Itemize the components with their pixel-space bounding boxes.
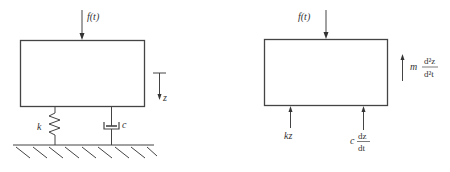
damper-force-coef: c (350, 135, 355, 146)
diagram-canvas: f(t) z k c (0, 0, 450, 172)
damper-force-numerator: dz (358, 131, 367, 141)
spring-label: k (37, 121, 42, 132)
damper-force-denominator: dt (358, 143, 366, 153)
spring-force-label: kz (284, 130, 292, 141)
ground-icon (13, 145, 157, 158)
right-diagram: f(t) m d²z d²t kz c dz dt (265, 10, 439, 153)
damper-icon (104, 107, 119, 145)
inertia-arrow-icon (401, 54, 405, 81)
inertia-numerator: d²z (424, 56, 435, 66)
right-force-label: f(t) (298, 11, 311, 23)
left-force-arrow-icon (80, 10, 85, 40)
left-diagram: f(t) z k c (13, 10, 167, 158)
right-mass-block (265, 40, 388, 106)
displacement-label: z (162, 92, 167, 103)
left-mass-block (21, 41, 145, 107)
spring-icon (49, 107, 60, 145)
damper-force-arrow-icon (362, 106, 366, 130)
damper-label: c (122, 119, 127, 130)
left-force-label: f(t) (87, 11, 100, 23)
spring-force-arrow-icon (289, 106, 293, 128)
inertia-denominator: d²t (424, 69, 434, 79)
right-force-arrow-icon (324, 10, 329, 39)
inertia-coef-label: m (410, 61, 417, 72)
